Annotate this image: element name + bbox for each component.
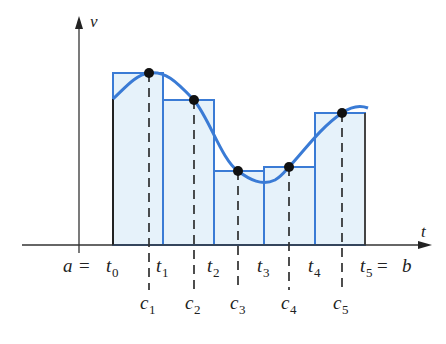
c1-label: c [140,292,149,313]
c2-subscript: 2 [194,302,201,317]
y-axis-arrow-icon [75,16,83,29]
t1-subscript: 1 [162,265,169,280]
c5-label: c [333,292,342,313]
t3-subscript: 3 [263,265,270,280]
t0-subscript: 0 [112,265,119,280]
riemann-rectangles [113,73,365,245]
c4-label: c [281,292,290,313]
point-c3 [233,166,243,176]
x-axis-arrow-icon [418,241,432,249]
t5-subscript: 5 [366,265,373,280]
c1-subscript: 1 [149,302,156,317]
t2-subscript: 2 [213,265,220,280]
point-c5 [337,108,347,118]
a-label: a [63,255,73,276]
riemann-sum-diagram: v t a = t 0 t 1 t 2 t 3 t 4 t 5 = b c 1 … [0,0,446,344]
c3-label: c [230,292,239,313]
rectangle-5 [315,113,365,245]
x-axis-label: t [421,222,427,241]
rectangle-1 [113,73,163,245]
b-label: b [402,255,412,276]
point-c1 [144,68,154,78]
point-c2 [189,95,199,105]
a-equals: = [79,255,90,276]
c5-subscript: 5 [342,302,349,317]
c3-subscript: 3 [239,302,246,317]
y-axis-label: v [90,12,98,31]
c4-subscript: 4 [290,302,297,317]
t4-subscript: 4 [314,265,321,280]
b-equals: = [377,255,388,276]
c2-label: c [185,292,194,313]
point-c4 [284,162,294,172]
